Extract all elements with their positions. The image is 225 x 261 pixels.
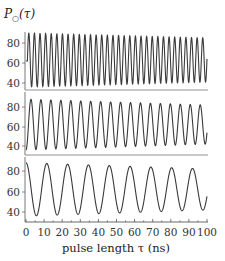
y-tick-60: 60 [7, 186, 20, 198]
y-tick-60: 60 [7, 57, 20, 69]
curve-middle [26, 99, 207, 150]
panel-top: 80 60 40 [7, 32, 208, 90]
y-tick-40: 40 [7, 206, 20, 218]
x-tick-20: 20 [56, 226, 69, 238]
panel-bottom: 80 60 40 [7, 157, 208, 222]
rabi-figure: P○(τ) 80 60 40 80 60 40 80 60 40 [0, 0, 225, 261]
x-axis-tick-labels: 0 10 20 30 40 50 60 70 80 90 100 [23, 226, 217, 238]
curve-bottom [26, 163, 207, 216]
x-tick-40: 40 [92, 226, 105, 238]
x-tick-90: 90 [182, 226, 195, 238]
y-tick-60: 60 [7, 121, 20, 133]
panel-middle: 80 60 40 [7, 92, 208, 155]
y-tick-40: 40 [7, 77, 20, 89]
y-tick-40: 40 [7, 140, 20, 152]
y-ticks-top: 80 60 40 [7, 37, 25, 89]
y-tick-80: 80 [7, 165, 20, 177]
x-axis-ticks [26, 219, 207, 222]
x-tick-100: 100 [197, 226, 217, 238]
y-axis-title: P○(τ) [3, 7, 35, 23]
x-tick-50: 50 [110, 226, 123, 238]
x-axis-title: pulse length τ (ns) [62, 241, 170, 255]
x-tick-60: 60 [128, 226, 141, 238]
curve-top [26, 33, 207, 87]
y-tick-80: 80 [7, 37, 20, 49]
y-tick-80: 80 [7, 101, 20, 113]
x-tick-70: 70 [146, 226, 159, 238]
x-tick-30: 30 [74, 226, 87, 238]
x-tick-10: 10 [37, 226, 50, 238]
x-tick-80: 80 [164, 226, 177, 238]
x-tick-0: 0 [23, 226, 30, 238]
